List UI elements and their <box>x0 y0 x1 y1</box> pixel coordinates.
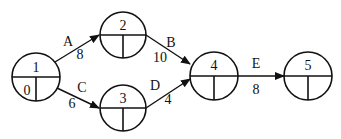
edge-c: C 6 <box>57 80 99 111</box>
node-4: 4 <box>190 52 238 100</box>
node-1-early-time: 0 <box>24 83 31 98</box>
edge-d-activity: D <box>150 78 160 93</box>
edge-a-duration: 8 <box>77 47 84 62</box>
node-3-label: 3 <box>120 91 127 106</box>
edge-a-activity: A <box>63 34 74 49</box>
edge-b: B 10 <box>146 35 190 65</box>
edge-d: D 4 <box>146 78 190 108</box>
nodes: 1 0 2 3 4 <box>12 12 332 131</box>
node-2-label: 2 <box>120 18 127 33</box>
edge-a: A 8 <box>55 34 99 62</box>
node-2: 2 <box>100 12 146 58</box>
edge-c-activity: C <box>77 80 86 95</box>
node-5-label: 5 <box>305 58 312 73</box>
edge-b-activity: B <box>166 35 175 50</box>
node-5: 5 <box>284 52 332 100</box>
edge-e: E 8 <box>238 56 284 97</box>
node-4-label: 4 <box>211 58 218 73</box>
node-3: 3 <box>100 85 146 131</box>
edge-b-duration: 10 <box>153 50 167 65</box>
network-diagram: A 8 C 6 B 10 D 4 E 8 <box>0 0 341 139</box>
edge-e-duration: 8 <box>253 82 260 97</box>
node-1: 1 0 <box>12 53 60 101</box>
edge-c-duration: 6 <box>69 96 76 111</box>
edge-d-duration: 4 <box>165 92 172 107</box>
node-1-label: 1 <box>33 60 40 75</box>
edge-e-activity: E <box>252 56 261 71</box>
edges: A 8 C 6 B 10 D 4 E 8 <box>55 34 284 111</box>
